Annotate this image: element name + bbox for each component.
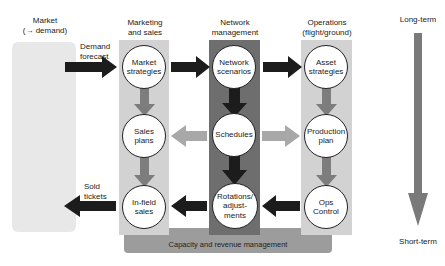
market-strategies-line1: Market [127, 58, 162, 68]
infield-sales-line1: In-field [132, 198, 156, 208]
rotations-line3: ments [217, 211, 253, 221]
ops-control-line1: Ops [313, 198, 339, 208]
node-schedules: Schedules [212, 113, 256, 157]
asset-strategies-to-production-plan-arrow [316, 87, 337, 116]
rotations-to-infield-sales-arrow [171, 195, 207, 217]
node-market-strategies: Market strategies [122, 45, 166, 89]
node-sales-plans: Sales plans [122, 114, 166, 158]
sales-plans-line1: Sales [134, 127, 154, 137]
production-plan-line1: Production [307, 127, 345, 137]
timeline-arrow [408, 33, 428, 226]
demand-forecast-line2: forecast [80, 52, 110, 62]
rotations-line2: adjust- [217, 201, 253, 211]
sales-plans-to-infield-sales-arrow [134, 156, 155, 187]
asset-strategies-line1: Asset [309, 58, 344, 68]
node-rotations: Rotations/ adjust- ments [212, 183, 258, 229]
network-scenarios-line2: scenarios [217, 67, 251, 77]
timeline-top-label: Long-term [392, 15, 444, 25]
ops-control-line2: Control [313, 207, 339, 217]
network-scenarios-line1: Network [217, 58, 251, 68]
market-strategies-line2: strategies [127, 67, 162, 77]
marketing-to-network-arrow [171, 56, 210, 78]
sold-tickets-line2: tickets [84, 192, 107, 202]
sold-tickets-line1: Sold [84, 182, 107, 192]
schedules-to-sales-plans-arrow [171, 125, 207, 147]
schedules-to-rotations-arrow [222, 154, 247, 185]
sales-plans-line2: plans [134, 136, 154, 146]
demand-forecast-line1: Demand [80, 42, 110, 52]
ops-control-to-rotations-arrow [262, 195, 300, 217]
node-ops-control: Ops Control [304, 185, 348, 229]
node-asset-strategies: Asset strategies [304, 45, 348, 89]
production-plan-to-ops-control-arrow [316, 156, 337, 187]
node-production-plan: Production plan [304, 114, 348, 158]
node-network-scenarios: Network scenarios [212, 45, 256, 89]
timeline-bottom-label: Short-term [392, 237, 444, 247]
asset-strategies-line2: strategies [309, 67, 344, 77]
demand-forecast-label: Demand forecast [80, 42, 110, 61]
production-plan-line2: plan [307, 136, 345, 146]
market-strategies-to-sales-plans-arrow [134, 87, 155, 116]
schedules-to-production-plan-arrow [262, 125, 300, 147]
schedules-line1: Schedules [215, 130, 252, 140]
node-infield-sales: In-field sales [122, 185, 166, 229]
infield-sales-line2: sales [132, 207, 156, 217]
network-to-operations-arrow [263, 56, 302, 78]
rotations-line1: Rotations/ [217, 192, 253, 202]
sold-tickets-label: Sold tickets [84, 182, 107, 201]
